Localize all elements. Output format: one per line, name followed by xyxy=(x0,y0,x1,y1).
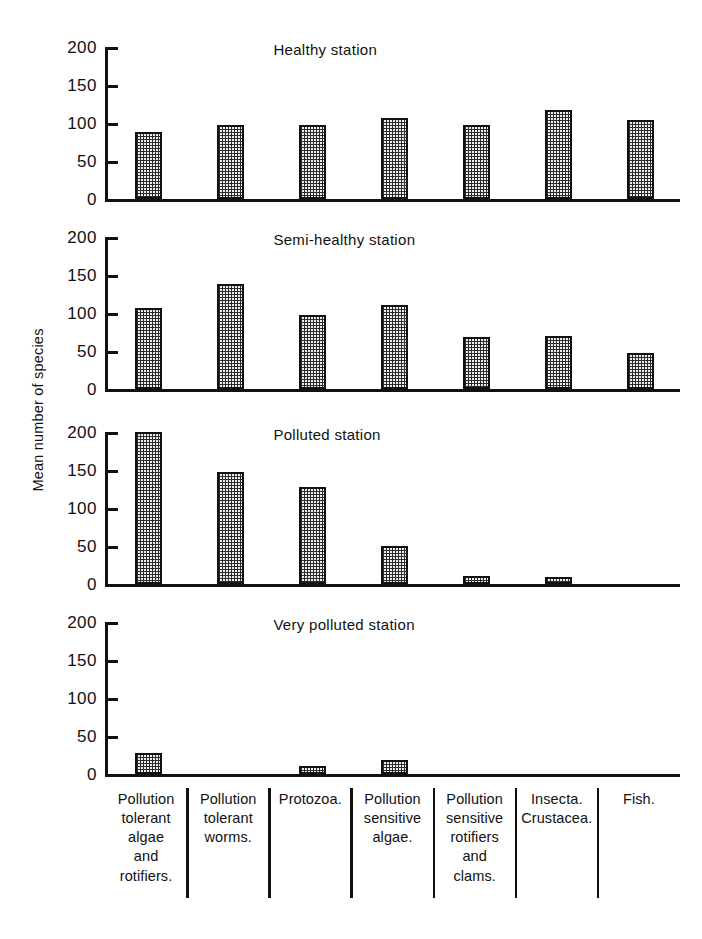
x-axis-line xyxy=(105,774,680,777)
x-axis-line xyxy=(105,584,680,587)
category-label-line: Protozoa. xyxy=(269,790,351,809)
category-label: Pollutionsensitiverotifiersandclams. xyxy=(434,786,516,936)
y-axis-tick xyxy=(105,736,118,739)
y-axis-tick-label: 150 xyxy=(67,267,97,284)
category-label-line: Insecta. xyxy=(516,790,598,809)
category-separator xyxy=(186,788,188,898)
category-label-line: Crustacea. xyxy=(516,809,598,828)
category-label: Protozoa. xyxy=(269,786,351,936)
y-axis-tick-label: 150 xyxy=(67,77,97,94)
category-separator xyxy=(433,788,435,898)
category-axis-strip: Pollutiontolerantalgaeandrotifiers.Pollu… xyxy=(105,786,680,936)
y-axis-tick xyxy=(105,161,118,164)
bar xyxy=(627,120,654,199)
y-axis-tick-label: 200 xyxy=(67,39,97,56)
category-label-line: tolerant xyxy=(187,809,269,828)
bar xyxy=(135,432,162,584)
category-label: Pollutionsensitivealgae. xyxy=(351,786,433,936)
y-axis-tick xyxy=(105,546,118,549)
y-axis-tick xyxy=(105,123,118,126)
y-axis-tick xyxy=(105,237,118,240)
y-axis-tick xyxy=(105,622,118,625)
category-label-line: and xyxy=(434,847,516,866)
y-axis-tick-label: 0 xyxy=(87,381,97,398)
category-label-line: Pollution xyxy=(351,790,433,809)
x-axis-line xyxy=(105,199,680,202)
panel-title: Very polluted station xyxy=(273,616,414,633)
bar xyxy=(627,353,654,389)
bar xyxy=(217,125,244,199)
bar xyxy=(299,315,326,389)
plot-area: 050100150200Polluted station xyxy=(105,432,680,584)
y-axis-tick xyxy=(105,351,118,354)
y-axis-tick xyxy=(105,432,118,435)
y-axis-tick-label: 200 xyxy=(67,614,97,631)
category-label: Insecta.Crustacea. xyxy=(516,786,598,936)
y-axis-tick-label: 50 xyxy=(77,343,97,360)
y-axis-tick xyxy=(105,47,118,50)
category-separator xyxy=(350,788,352,898)
bar xyxy=(381,118,408,199)
bar xyxy=(545,336,572,389)
category-label-line: algae. xyxy=(351,828,433,847)
y-axis-tick-label: 50 xyxy=(77,153,97,170)
category-label-line: rotifiers xyxy=(434,828,516,847)
category-separator xyxy=(597,788,599,898)
category-label-line: sensitive xyxy=(351,809,433,828)
category-label-line: worms. xyxy=(187,828,269,847)
y-axis-tick-label: 100 xyxy=(67,500,97,517)
plot-area: 050100150200Healthy station xyxy=(105,47,680,199)
category-label-line: Fish. xyxy=(598,790,680,809)
bar xyxy=(463,125,490,199)
bar xyxy=(135,132,162,199)
category-label-line: Pollution xyxy=(434,790,516,809)
y-axis-tick-label: 150 xyxy=(67,652,97,669)
plot-area: 050100150200Semi-healthy station xyxy=(105,237,680,389)
y-axis-tick-label: 200 xyxy=(67,229,97,246)
bar xyxy=(381,305,408,389)
y-axis-tick xyxy=(105,313,118,316)
category-separator xyxy=(268,788,270,898)
y-axis-tick xyxy=(105,85,118,88)
category-label-line: tolerant xyxy=(105,809,187,828)
y-axis-tick-label: 150 xyxy=(67,462,97,479)
y-axis-tick xyxy=(105,660,118,663)
y-axis-tick-label: 50 xyxy=(77,728,97,745)
panel-title: Polluted station xyxy=(273,426,380,443)
y-axis-tick-label: 200 xyxy=(67,424,97,441)
category-label-line: rotifiers. xyxy=(105,867,187,886)
y-axis-tick-label: 100 xyxy=(67,305,97,322)
plot-area: 050100150200Very polluted station xyxy=(105,622,680,774)
bar xyxy=(381,546,408,584)
y-axis-tick-label: 0 xyxy=(87,576,97,593)
y-axis-tick xyxy=(105,470,118,473)
category-label: Pollutiontolerantalgaeandrotifiers. xyxy=(105,786,187,936)
bar xyxy=(299,766,326,774)
chart-panel: 050100150200Healthy station xyxy=(0,47,702,205)
category-label: Fish. xyxy=(598,786,680,936)
bar xyxy=(217,284,244,389)
chart-panel: 050100150200Polluted station xyxy=(0,432,702,590)
y-axis-tick xyxy=(105,698,118,701)
category-label-line: and xyxy=(105,847,187,866)
category-label: Pollutiontolerantworms. xyxy=(187,786,269,936)
y-axis-tick-label: 100 xyxy=(67,115,97,132)
bar xyxy=(299,487,326,584)
bar xyxy=(135,308,162,389)
panel-title: Healthy station xyxy=(273,41,377,58)
y-axis-tick xyxy=(105,275,118,278)
category-label-line: Pollution xyxy=(187,790,269,809)
bar xyxy=(299,125,326,199)
bar xyxy=(217,472,244,584)
y-axis-tick-label: 0 xyxy=(87,766,97,783)
chart-panel: 050100150200Semi-healthy station xyxy=(0,237,702,395)
y-axis-tick-label: 50 xyxy=(77,538,97,555)
category-label-line: clams. xyxy=(434,867,516,886)
chart-figure: Mean number of species 050100150200Healt… xyxy=(0,0,702,939)
y-axis-tick-label: 100 xyxy=(67,690,97,707)
category-separator xyxy=(515,788,517,898)
category-label-line: sensitive xyxy=(434,809,516,828)
y-axis-tick xyxy=(105,508,118,511)
x-axis-line xyxy=(105,389,680,392)
category-label-line: algae xyxy=(105,828,187,847)
